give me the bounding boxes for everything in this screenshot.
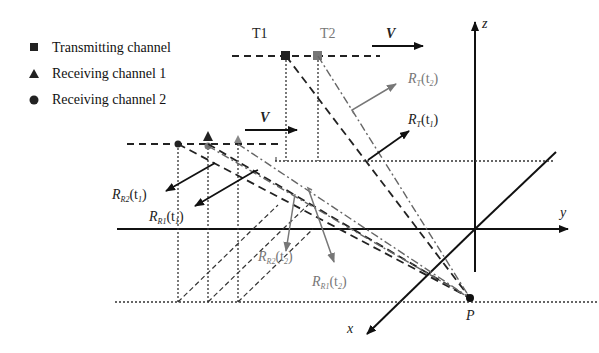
velocity-label-mid: V [260, 110, 271, 125]
transmitter-track: T1 T2 V [232, 26, 423, 60]
x-axis-back [475, 152, 556, 229]
x-axis-label: x [346, 321, 354, 336]
y-axis-label: y [558, 205, 567, 220]
receiver-track: V [127, 110, 297, 150]
t2-label: T2 [320, 26, 336, 41]
t1-label: T1 [252, 26, 268, 41]
legend-receiving-1: Receiving channel 1 [52, 66, 166, 81]
label-rr1-t2: RR1(t2) [311, 274, 347, 291]
point-p-label: P [465, 308, 475, 323]
label-rr2-t2: RR2(t2) [257, 249, 293, 266]
radar-geometry-diagram: Transmitting channel Receiving channel 1… [0, 0, 599, 353]
square-icon [30, 43, 38, 51]
triangle-icon [29, 69, 39, 78]
range-arrows [166, 84, 409, 262]
label-rt-t1: RT(t1) [407, 112, 439, 129]
label-rr1-t1: RR1(t1) [148, 209, 184, 226]
x-axis [367, 229, 475, 334]
rx1-t2-triangle [234, 135, 242, 143]
z-axis-label: z [481, 16, 488, 31]
circle-icon [30, 96, 39, 105]
label-rr2-t1: RR2(t1) [111, 187, 147, 204]
legend-transmitting: Transmitting channel [52, 40, 171, 55]
ground-diagonals [178, 205, 313, 302]
t2-square [313, 51, 322, 60]
rx1-triangle [203, 131, 213, 141]
velocity-label-top: V [386, 26, 397, 41]
legend-receiving-2: Receiving channel 2 [52, 92, 166, 107]
legend: Transmitting channel Receiving channel 1… [29, 40, 171, 107]
target-point-p [466, 294, 474, 302]
label-rt-t2: RT(t2) [407, 71, 439, 88]
receive-paths [178, 144, 470, 298]
